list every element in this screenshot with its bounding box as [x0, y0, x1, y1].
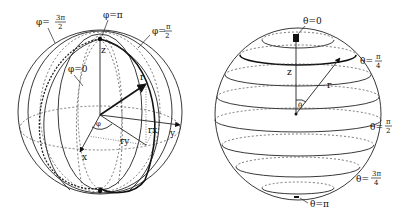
svg-text:4: 4 [376, 62, 381, 70]
north-pole-dot [98, 37, 102, 41]
svg-text:θ=: θ= [356, 174, 369, 184]
svg-text:3π: 3π [372, 170, 381, 178]
y-axis-label: y [169, 128, 176, 138]
svg-text:φ=0: φ=0 [68, 64, 88, 74]
svg-text:φ=: φ= [152, 26, 166, 36]
r-vector-label: r [327, 80, 332, 90]
svg-text:π: π [386, 118, 391, 126]
svg-text:4: 4 [374, 179, 379, 187]
svg-text:φ=π: φ=π [103, 10, 123, 20]
svg-text:θ=: θ= [360, 56, 373, 66]
phi-angle-label: φ [96, 120, 101, 128]
svg-text:2: 2 [386, 127, 390, 135]
south-pole-marker [294, 196, 299, 198]
svg-text:2: 2 [165, 32, 169, 40]
theta-3pi-4-label: θ= 3π 4 [356, 170, 381, 187]
svg-text:3π: 3π [56, 14, 65, 22]
rx-label: rx [148, 125, 157, 135]
south-pole-dot [98, 189, 102, 193]
theta-pi-4-label: θ= π 4 [360, 53, 382, 70]
phi-pi-2-label: φ= π 2 [138, 23, 172, 48]
svg-text:π: π [376, 53, 381, 61]
svg-text:θ=π: θ=π [310, 199, 329, 209]
z-axis-label: z [287, 67, 292, 77]
spherical-coordinates-figure: φ= 3π 2 φ=π φ= π 2 φ=0 z r y rx ry x φ [0, 0, 407, 217]
z-axis-label: z [101, 45, 106, 55]
svg-text:φ=: φ= [36, 17, 50, 27]
ry-label: ry [120, 136, 130, 146]
r-vector-label: r [140, 72, 145, 82]
phi-3pi-2-label: φ= 3π 2 [36, 14, 66, 43]
phi-0-label: φ=0 [68, 64, 88, 86]
theta-0-label: θ=0 [298, 16, 322, 34]
right-sphere-theta-parallels: θ=0 θ= π 4 θ= π 2 θ= 3π 4 θ=π z r θ [215, 16, 392, 209]
theta-angle-label: θ [298, 102, 302, 110]
svg-text:2: 2 [58, 23, 62, 31]
x-axis-label: x [82, 152, 87, 162]
left-sphere-phi-meridians: φ= 3π 2 φ=π φ= π 2 φ=0 z r y rx ry x φ [18, 10, 182, 194]
svg-text:π: π [166, 23, 171, 31]
svg-text:θ=0: θ=0 [303, 16, 322, 26]
svg-text:θ=: θ= [370, 122, 383, 132]
parallel-lines [215, 32, 381, 194]
north-pole-marker [293, 34, 299, 42]
